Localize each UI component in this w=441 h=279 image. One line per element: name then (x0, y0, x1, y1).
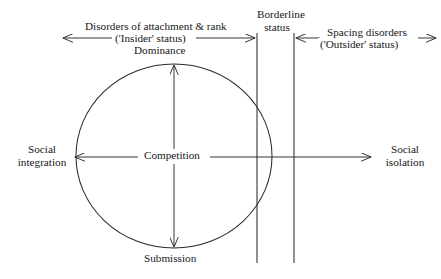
diagram-canvas: Disorders of attachment & rank ('Insider… (0, 0, 441, 279)
label-disorders-of-attachment-rank: Disorders of attachment & rank (83, 20, 229, 33)
label-spacing-disorders: Spacing disorders (325, 26, 409, 39)
label-social-integration-line2: integration (14, 156, 70, 169)
label-social-isolation-line2: isolation (377, 156, 433, 169)
label-social-integration-line1: Social (14, 143, 70, 156)
label-borderline-status: Borderline status (256, 8, 298, 33)
label-social-isolation-line1: Social (377, 143, 433, 156)
label-insider-status: ('Insider' status) (112, 32, 189, 45)
label-submission: Submission (141, 252, 199, 265)
label-dominance: Dominance (131, 44, 189, 57)
label-social-isolation: Social isolation (377, 143, 433, 168)
label-outsider-status: ('Outsider' status) (318, 38, 400, 51)
label-borderline-line1: Borderline (257, 8, 297, 21)
label-borderline-line2: status (257, 21, 297, 34)
label-social-integration: Social integration (14, 143, 70, 168)
label-competition: Competition (140, 149, 204, 162)
